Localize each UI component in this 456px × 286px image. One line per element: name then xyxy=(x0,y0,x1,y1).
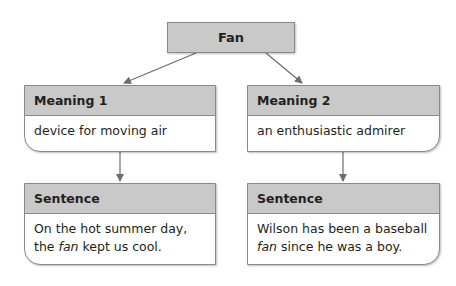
meaning-1-header: Meaning 1 xyxy=(25,86,215,116)
arrow-root-to-meaning-2 xyxy=(266,53,302,83)
sentence-1-header: Sentence xyxy=(25,184,215,214)
sentence-2-box: Sentence Wilson has been a baseball fan … xyxy=(247,183,440,265)
meaning-2-header: Meaning 2 xyxy=(248,86,439,116)
meaning-1-box: Meaning 1 device for moving air xyxy=(24,85,216,152)
meaning-2-box: Meaning 2 an enthusiastic admirer xyxy=(247,85,440,152)
sentence-1-after: kept us cool. xyxy=(78,239,161,254)
sentence-2-emphasis: fan xyxy=(257,239,277,254)
root-node: Fan xyxy=(167,22,295,53)
sentence-2-after: since he was a boy. xyxy=(277,239,402,254)
root-label: Fan xyxy=(218,30,244,45)
meaning-1-text: device for moving air xyxy=(25,116,215,146)
sentence-1-emphasis: fan xyxy=(59,239,79,254)
sentence-2-before: Wilson has been a baseball xyxy=(257,221,427,236)
sentence-1-text: On the hot summer day, the fan kept us c… xyxy=(25,214,215,262)
sentence-2-text: Wilson has been a baseball fan since he … xyxy=(248,214,439,262)
arrow-root-to-meaning-1 xyxy=(124,53,196,83)
meaning-2-text: an enthusiastic admirer xyxy=(248,116,439,146)
sentence-1-box: Sentence On the hot summer day, the fan … xyxy=(24,183,216,265)
sentence-2-header: Sentence xyxy=(248,184,439,214)
